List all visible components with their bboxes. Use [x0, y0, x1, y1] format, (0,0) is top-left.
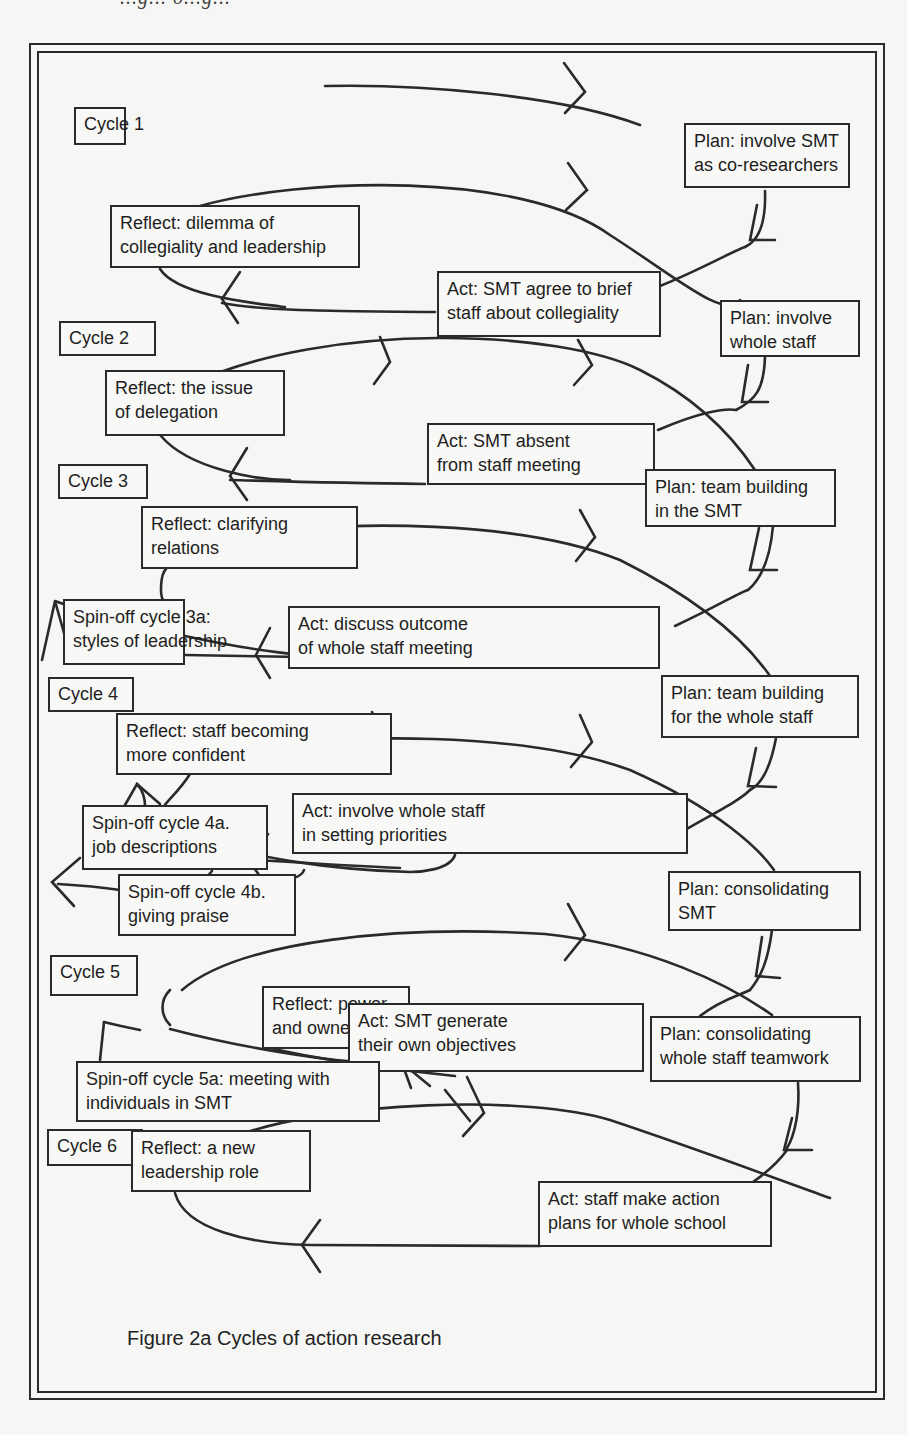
c4-act-to-crossing	[685, 790, 750, 830]
c4-spinoff-b-arrow	[58, 884, 120, 890]
arrow-head-icon	[571, 715, 592, 767]
c3-plan-step: Plan: team buildingin the SMT	[645, 469, 836, 527]
c5-spinoff-a-step: Spin-off cycle 5a: meeting withindividua…	[76, 1061, 380, 1122]
c1-entry-curve	[325, 86, 640, 125]
c2-plan-step: Plan: involvewhole staff	[720, 300, 860, 357]
cycle-label-5: Cycle 5	[50, 955, 138, 996]
c4-spinoff-b-step: Spin-off cycle 4b.giving praise	[118, 874, 296, 936]
arrow-head-icon	[374, 337, 390, 384]
arrow-head-icon	[463, 1077, 484, 1136]
c2-act-to-crossing	[658, 410, 736, 430]
c4-plan-step: Plan: team buildingfor the whole staff	[661, 675, 859, 738]
cycle-label-4: Cycle 4	[48, 677, 134, 712]
c6-reflect-step: Reflect: a newleadership role	[131, 1130, 311, 1192]
figure-caption: Figure 2a Cycles of action research	[127, 1327, 442, 1350]
arrow-head-icon	[574, 340, 592, 385]
cycle-label-2: Cycle 2	[59, 321, 156, 356]
cycle-label-3: Cycle 3	[58, 464, 148, 499]
c3-spinoff-a-step: Spin-off cycle 3a:styles of leadership	[63, 599, 185, 665]
c3-act-step: Act: discuss outcomeof whole staff meeti…	[288, 606, 660, 669]
c5-plan-smt-step: Plan: consolidatingSMT	[668, 871, 861, 931]
c4-spinoff-a-arrow-b	[137, 784, 145, 805]
c5-act-to-crossing	[700, 990, 750, 1016]
c5-spinoff-arrow	[100, 1022, 104, 1060]
c5-act-step: Act: SMT generatetheir own objectives	[348, 1003, 644, 1072]
c3-reflect-step: Reflect: clarifyingrelations	[141, 506, 358, 569]
arrow-head-icon	[566, 163, 587, 210]
c1-plan-step: Plan: involve SMTas co-researchers	[684, 123, 850, 188]
c2-bottom-arc	[161, 436, 290, 480]
c1-act-to-crossing	[660, 247, 745, 286]
c1-act-step: Act: SMT agree to briefstaff about colle…	[437, 271, 661, 337]
c4-spinoff-a-step: Spin-off cycle 4a.job descriptions	[82, 805, 268, 870]
c5-plan-whole-step: Plan: consolidatingwhole staff teamwork	[650, 1016, 861, 1082]
c4-act-step: Act: involve whole staffin setting prior…	[292, 793, 688, 854]
arrow-head-icon	[104, 1022, 140, 1030]
arrow-head-icon	[52, 858, 80, 906]
arrow-head-icon	[756, 937, 780, 978]
c2-reflect-step: Reflect: the issueof delegation	[105, 370, 285, 436]
c2-bottom-arc-b	[230, 480, 425, 484]
c6-plan-down	[787, 1083, 798, 1148]
c6-act-step: Act: staff make actionplans for whole sc…	[538, 1181, 772, 1247]
arrow-head-icon	[256, 628, 270, 678]
arrow-head-icon	[565, 904, 585, 960]
c2-act-step: Act: SMT absentfrom staff meeting	[427, 423, 655, 485]
c3-spinoff-arrow	[42, 601, 64, 660]
arrow-head-icon	[576, 510, 595, 561]
c3-act-to-crossing	[675, 590, 748, 626]
c4-reflect-step: Reflect: staff becomingmore confident	[116, 713, 392, 775]
c1-reflect-step: Reflect: dilemma ofcollegiality and lead…	[110, 205, 360, 268]
c5-reflect-bracket	[163, 990, 171, 1025]
cycle-label-6: Cycle 6	[47, 1129, 143, 1166]
c3-reflect-to-spinoff	[161, 569, 166, 600]
c6-bottom-arc	[175, 1193, 540, 1246]
c4-reflect-to-spinoff-a	[165, 774, 190, 805]
cycle-label-1: Cycle 1	[74, 107, 126, 145]
